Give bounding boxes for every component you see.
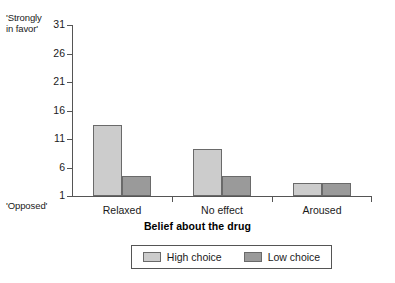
y-axis-line [72,25,73,196]
bar-high-choice-no-effect [193,149,222,196]
legend-swatch-icon [143,252,161,262]
y-axis-tick-mark [67,139,72,140]
legend-label: Low choice [268,251,321,263]
x-axis-category-label: Aroused [302,204,341,217]
bar-high-choice-relaxed [93,125,122,196]
legend-swatch-icon [244,252,262,262]
x-axis-tick-mark [371,197,372,202]
y-axis-tick-mark [67,54,72,55]
chart-legend: High choiceLow choice [131,245,332,269]
legend-item-low: Low choice [244,251,321,263]
plot-area: 161116212631 RelaxedNo effectAroused [72,20,372,201]
y-axis-tick-label: 11 [54,132,65,144]
x-axis-tick-mark [272,197,273,202]
y-axis-tick-mark [67,196,72,197]
x-axis-line [72,196,372,197]
bar-high-choice-aroused [293,183,322,196]
y-axis-tick-label: 31 [53,18,65,30]
legend-label: High choice [167,251,222,263]
y-axis-tick-label: 26 [53,47,65,59]
y-axis-tick-mark [67,168,72,169]
bar-low-choice-no-effect [222,176,251,196]
bar-low-choice-aroused [322,183,351,196]
x-axis-category-label: No effect [201,204,243,217]
y-axis-tick-label: 21 [53,75,65,87]
y-axis-anchor-high-label: 'Strongly in favor' [6,12,42,34]
legend-item-high: High choice [143,251,222,263]
x-axis-tick-mark [172,197,173,202]
x-axis-category-label: Relaxed [103,204,142,217]
y-axis-tick-mark [67,25,72,26]
y-axis-anchor-low-label: 'Opposed' [6,200,47,211]
y-axis-tick-label: 16 [53,104,65,116]
y-axis-tick-label: 1 [59,189,65,201]
y-axis-tick-mark [67,82,72,83]
bar-low-choice-relaxed [122,176,151,196]
y-axis-tick-mark [67,111,72,112]
bar-chart: 'Strongly in favor' 'Opposed' 1611162126… [0,0,395,283]
x-axis-title: Belief about the drug [0,220,395,232]
y-axis-tick-label: 6 [59,161,65,173]
